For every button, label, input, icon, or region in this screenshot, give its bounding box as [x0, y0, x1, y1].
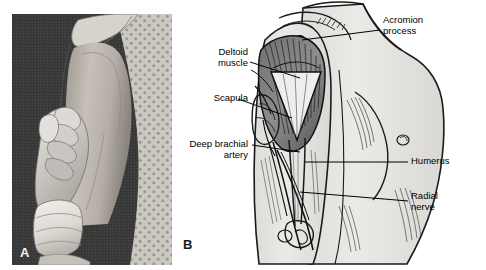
figure-root: A [0, 0, 486, 270]
leader-deltoid-muscle [250, 62, 300, 78]
label-scapula: Scapula [150, 92, 248, 103]
leader-lines [0, 0, 486, 270]
label-humerus: Humerus [411, 155, 481, 166]
label-radial-nerve: Radial nerve [411, 190, 481, 212]
label-deltoid-muscle: Deltoid muscle [150, 46, 248, 68]
leader-acromion-process [302, 30, 380, 40]
label-deep-brachial-artery: Deep brachial artery [142, 138, 248, 160]
leader-radial-nerve [300, 192, 408, 201]
label-acromion-process: Acromion process [383, 14, 479, 36]
leader-deep-brachial-artery [252, 145, 300, 152]
